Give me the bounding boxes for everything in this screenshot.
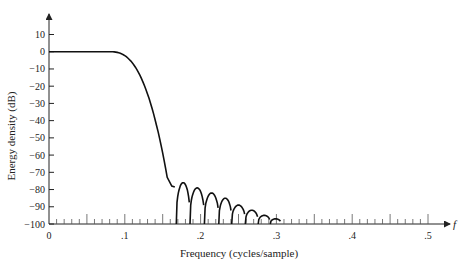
x-tick-label: .4 <box>348 230 356 241</box>
y-tick-label: −30 <box>29 98 45 109</box>
y-tick-label: −80 <box>29 184 45 195</box>
y-tick-label: −50 <box>29 132 45 143</box>
y-tick-label: −10 <box>29 63 45 74</box>
energy-density-chart: 100−10−20−30−40−50−60−70−80−90−100 0.1.2… <box>0 0 470 264</box>
x-axis-symbol: f <box>453 218 458 230</box>
y-axis: 100−10−20−30−40−50−60−70−80−90−100 <box>24 14 54 230</box>
y-tick-label: −90 <box>29 201 45 212</box>
x-tick-label: .2 <box>197 230 205 241</box>
y-tick-label: −60 <box>29 150 45 161</box>
x-axis-title: Frequency (cycles/sample) <box>180 247 299 260</box>
y-tick-label: −100 <box>24 219 45 230</box>
x-tick-label: .5 <box>424 230 432 241</box>
y-tick-label: −40 <box>29 115 45 126</box>
x-tick-label: 0 <box>47 230 52 241</box>
y-tick-label: −20 <box>29 81 45 92</box>
y-tick-label: 10 <box>35 29 45 40</box>
y-tick-label: −70 <box>29 167 45 178</box>
y-tick-label: 0 <box>40 46 45 57</box>
series-energy-density <box>49 52 280 224</box>
x-tick-label: .1 <box>121 230 129 241</box>
y-axis-title: Energy density (dB) <box>5 91 18 180</box>
x-tick-label: .3 <box>273 230 281 241</box>
x-axis: 0.1.2.3.4.5 <box>47 214 451 241</box>
